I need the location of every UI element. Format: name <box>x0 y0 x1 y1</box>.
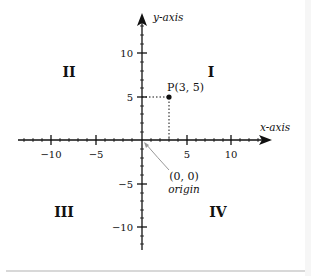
origin-label: origin <box>168 183 200 195</box>
y-tick-label: −10 <box>112 222 133 233</box>
point-p-label: P(3, 5) <box>167 81 204 94</box>
y-tick-label: 10 <box>120 48 133 59</box>
x-tick-label: −5 <box>89 149 104 160</box>
origin-coords-label: (0, 0) <box>169 170 199 183</box>
y-axis-label: y-axis <box>152 11 184 23</box>
coordinate-plane: −10 −5 5 10 10 5 −5 −10 y-axis x-axis II… <box>0 0 311 276</box>
x-tick-label: 5 <box>184 149 190 160</box>
quadrant-label-i: I <box>208 64 215 80</box>
point-p-marker <box>166 94 171 99</box>
x-tick-label: −10 <box>40 149 61 160</box>
x-axis-label: x-axis <box>260 121 291 133</box>
frame-edge <box>305 0 311 276</box>
origin-leader-line <box>145 143 169 170</box>
bottom-rule <box>6 270 305 272</box>
y-tick-label: 5 <box>127 92 133 103</box>
quadrant-label-iii: III <box>54 204 74 220</box>
diagram-frame: −10 −5 5 10 10 5 −5 −10 y-axis x-axis II… <box>0 0 311 276</box>
quadrant-label-iv: IV <box>209 204 228 220</box>
quadrant-label-ii: II <box>62 64 75 80</box>
x-tick-label: 10 <box>225 149 238 160</box>
y-tick-label: −5 <box>118 179 133 190</box>
